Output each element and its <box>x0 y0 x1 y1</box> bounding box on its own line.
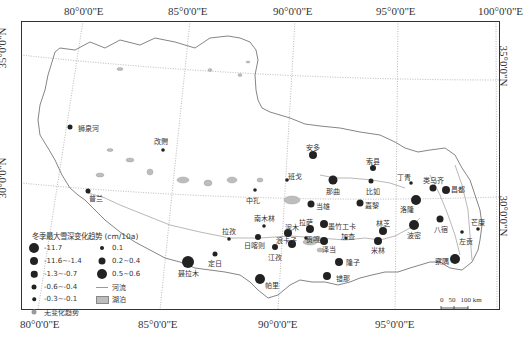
station-label: 贡嘎 <box>306 234 320 244</box>
legend-item: 湖泊 <box>96 293 126 305</box>
station-label: 普兰 <box>89 193 103 203</box>
legend-item: -11.7 <box>28 242 62 254</box>
circle-symbol-icon <box>28 255 40 267</box>
station-label: 昌都 <box>451 184 465 194</box>
lon-tick-top-80: 80°0'0"E <box>64 5 104 17</box>
circle-symbol-icon <box>28 293 40 305</box>
station-label: 拉孜 <box>222 226 236 236</box>
station-label: 定日 <box>208 258 222 268</box>
circle-symbol-icon <box>96 268 108 280</box>
station-label: 日喀则 <box>244 240 265 250</box>
station-label: 加查 <box>341 231 355 241</box>
station-label: 芒康 <box>471 217 485 227</box>
station-label: 那曲 <box>326 186 340 196</box>
legend-label: -0.6~-0.4 <box>44 283 77 291</box>
station-label: 南木林 <box>254 213 275 223</box>
legend-item: -0.3~-0.1 <box>28 293 77 305</box>
legend-item: -11.6~-1.4 <box>28 255 82 267</box>
lake-symbol-icon <box>96 293 108 305</box>
legend-label: 0.5~0.6 <box>112 270 140 278</box>
circle-symbol-icon <box>28 281 40 293</box>
station-label: 江孜 <box>268 252 282 262</box>
station-label: 八宿 <box>434 224 448 234</box>
circle-symbol-icon <box>96 255 108 267</box>
legend-label: 0.1 <box>112 244 123 252</box>
lon-tick-top-95: 95°0'0"E <box>376 5 416 17</box>
legend-item: 0.1 <box>96 242 123 254</box>
station-label: 聂拉木 <box>178 268 199 278</box>
scale-bar: 0 50 100 km <box>440 296 482 311</box>
station-label: 错那 <box>336 273 350 283</box>
station-label: 当雄 <box>316 201 330 211</box>
lat-tick-right-35: 35°0'0"N <box>498 46 510 87</box>
legend-label: 无变化趋势 <box>44 307 79 317</box>
station-label: 波密 <box>407 230 421 240</box>
station-label: 察隅 <box>435 256 449 266</box>
station-label: 嘉黎 <box>365 200 379 210</box>
station-label: 林芝 <box>376 218 390 228</box>
station-label: 班戈 <box>288 171 302 181</box>
lat-tick-left-30: 30°0'0"N <box>0 158 8 199</box>
lon-tick-bottom-85: 85°0'0"E <box>138 318 178 330</box>
lon-tick-top-90: 90°0'0"E <box>273 5 313 17</box>
station-label: 浪卡子 <box>276 235 297 245</box>
circle-symbol-icon <box>28 268 40 280</box>
legend-label: -1.3~-0.7 <box>44 270 77 278</box>
legend-item: -1.3~-0.7 <box>28 268 77 280</box>
station-label: 隆子 <box>346 257 360 267</box>
lat-tick-right-30: 30°0'0"N <box>498 196 510 237</box>
circle-symbol-icon <box>96 242 108 254</box>
lon-tick-bottom-90: 90°0'0"E <box>258 318 298 330</box>
station-label: 类乌齐 <box>423 175 444 185</box>
legend-item: 0.2~0.4 <box>96 255 140 267</box>
station-label: 狮泉河 <box>78 123 99 133</box>
legend-title: 冬季最大雪深变化趋势 (cm/10a) <box>32 230 138 241</box>
scale-label-0: 0 <box>440 296 444 304</box>
station-label: 泥木 <box>285 222 299 232</box>
station-label: 安多 <box>306 142 320 152</box>
legend-label: -11.7 <box>44 244 62 252</box>
river-symbol-icon <box>96 281 108 293</box>
legend-label: 0.2~0.4 <box>112 257 140 265</box>
legend-label: -11.6~-1.4 <box>44 257 82 265</box>
station-label: 泽当 <box>322 244 336 254</box>
station-label: 墨竹工卡 <box>328 221 356 231</box>
lon-tick-top-100: 100°0'0"E <box>478 5 523 17</box>
legend-item: 无变化趋势 <box>28 306 79 318</box>
lat-tick-left-35: 35°0'0"N <box>0 28 8 69</box>
legend-item: -0.6~-0.4 <box>28 281 77 293</box>
station-label: 比如 <box>366 186 380 196</box>
station-label: 中扎 <box>246 195 260 205</box>
station-label: 丁青 <box>397 172 411 182</box>
station-label: 索县 <box>366 156 380 166</box>
station-label: 拉萨 <box>299 217 313 227</box>
map-frame <box>21 21 500 310</box>
lon-tick-bottom-95: 95°0'0"E <box>375 318 415 330</box>
station-label: 洛隆 <box>400 204 414 214</box>
circle-symbol-icon <box>28 306 40 318</box>
station-label: 帕里 <box>265 280 279 290</box>
circle-symbol-icon <box>28 242 40 254</box>
legend-label: 湖泊 <box>112 294 126 304</box>
lon-tick-bottom-80: 80°0'0"E <box>20 318 60 330</box>
legend-label: -0.3~-0.1 <box>44 295 77 303</box>
scale-label-50: 50 <box>449 296 456 304</box>
legend-label: 河流 <box>112 282 126 292</box>
station-label: 米林 <box>371 245 385 255</box>
scale-label-100: 100 km <box>461 296 482 304</box>
legend-item: 0.5~0.6 <box>96 268 140 280</box>
scale-bar-line <box>440 305 470 311</box>
lon-tick-top-85: 85°0'0"E <box>168 5 208 17</box>
legend-item: 河流 <box>96 281 126 293</box>
station-label: 改则 <box>154 136 168 146</box>
station-label: 左贡 <box>459 236 473 246</box>
